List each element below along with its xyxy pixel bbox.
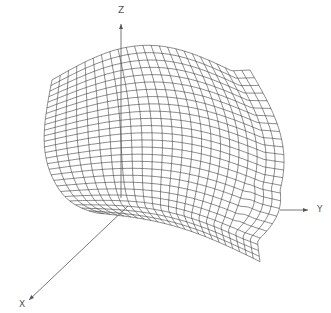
x-axis (29, 206, 128, 300)
mesh-line (176, 49, 202, 234)
wireframe-surface (44, 45, 284, 261)
mesh-line (217, 64, 248, 249)
mesh-line (192, 54, 220, 240)
mesh-line (209, 60, 239, 245)
mesh-line (143, 45, 172, 225)
mesh-line (242, 70, 275, 258)
mesh-line (54, 175, 280, 208)
z-axis (119, 24, 123, 198)
mesh-line (51, 53, 255, 86)
mesh-line (168, 47, 193, 232)
y-axis (280, 208, 308, 212)
y-axis-label: Y (317, 205, 323, 214)
mesh-line (47, 154, 281, 185)
x-axis-label: X (19, 300, 25, 309)
mesh-line (51, 168, 280, 201)
surface-plot (0, 0, 331, 313)
mesh-line (85, 62, 124, 216)
mesh-line (97, 213, 260, 262)
mesh-line (225, 68, 257, 252)
z-axis-label: Z (118, 6, 124, 15)
z-arrow-icon (119, 24, 123, 29)
mesh-line (50, 60, 259, 91)
mesh-line (46, 147, 283, 178)
mesh-line (102, 55, 138, 218)
mesh-line (151, 45, 179, 227)
mesh-line (44, 111, 281, 139)
y-arrow-icon (303, 208, 308, 212)
